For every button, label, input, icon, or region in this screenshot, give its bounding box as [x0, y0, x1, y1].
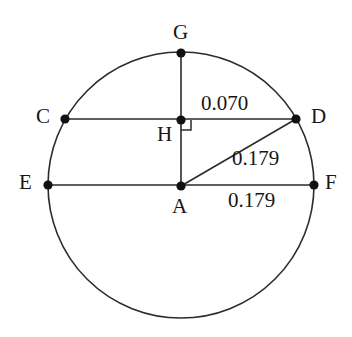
point-label-A: A — [172, 196, 187, 217]
measurement-label-AF: 0.179 — [228, 190, 275, 211]
geometry-canvas — [0, 0, 352, 337]
point-label-E: E — [19, 172, 32, 193]
point-label-D: D — [311, 106, 326, 127]
point-label-H: H — [157, 124, 172, 145]
vertex-dot-G — [176, 48, 185, 57]
measurement-label-HD: 0.070 — [201, 93, 248, 114]
vertex-dot-A — [176, 181, 185, 190]
point-label-F: F — [325, 172, 337, 193]
vertex-dot-E — [43, 180, 52, 189]
vertex-dot-D — [291, 114, 300, 123]
point-label-G: G — [173, 22, 188, 43]
vertex-dot-F — [309, 180, 318, 189]
measurement-label-AD: 0.179 — [232, 148, 279, 169]
geometry-figure: G C H D E A F 0.070 0.179 0.179 — [0, 0, 352, 337]
point-label-C: C — [36, 106, 50, 127]
vertex-dot-C — [60, 114, 69, 123]
vertex-dot-H — [176, 115, 185, 124]
